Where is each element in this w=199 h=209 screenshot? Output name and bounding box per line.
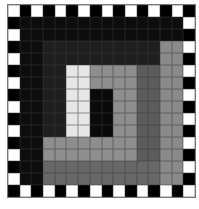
board-cell[interactable] <box>183 173 195 185</box>
board-cell[interactable] <box>125 125 137 137</box>
board-cell[interactable] <box>172 173 184 185</box>
board-cell[interactable] <box>183 185 195 197</box>
board-cell[interactable] <box>183 65 195 77</box>
board-cell[interactable] <box>55 185 67 197</box>
board-cell[interactable] <box>90 53 102 65</box>
board-cell[interactable] <box>137 185 149 197</box>
board-cell[interactable] <box>102 149 114 161</box>
board-cell[interactable] <box>125 185 137 197</box>
board-cell[interactable] <box>125 161 137 173</box>
board-cell[interactable] <box>43 41 55 53</box>
board-cell[interactable] <box>160 101 172 113</box>
board-cell[interactable] <box>8 29 20 41</box>
board-cell[interactable] <box>55 101 67 113</box>
board-cell[interactable] <box>55 149 67 161</box>
board-cell[interactable] <box>8 5 20 17</box>
board-cell[interactable] <box>148 89 160 101</box>
board-cell[interactable] <box>125 173 137 185</box>
board-cell[interactable] <box>113 89 125 101</box>
board-cell[interactable] <box>148 41 160 53</box>
board-cell[interactable] <box>113 173 125 185</box>
board-cell[interactable] <box>66 17 78 29</box>
board-cell[interactable] <box>102 89 114 101</box>
board-cell[interactable] <box>31 41 43 53</box>
board-cell[interactable] <box>113 41 125 53</box>
board-cell[interactable] <box>31 161 43 173</box>
board-cell[interactable] <box>102 53 114 65</box>
board-cell[interactable] <box>90 185 102 197</box>
board-cell[interactable] <box>55 17 67 29</box>
board-cell[interactable] <box>66 113 78 125</box>
board-cell[interactable] <box>8 125 20 137</box>
board-cell[interactable] <box>31 185 43 197</box>
board-cell[interactable] <box>160 113 172 125</box>
board-cell[interactable] <box>137 65 149 77</box>
board-cell[interactable] <box>172 29 184 41</box>
board-cell[interactable] <box>8 101 20 113</box>
board-cell[interactable] <box>125 77 137 89</box>
board-cell[interactable] <box>8 77 20 89</box>
board-cell[interactable] <box>66 77 78 89</box>
board-cell[interactable] <box>172 17 184 29</box>
board-cell[interactable] <box>43 161 55 173</box>
board-cell[interactable] <box>20 113 32 125</box>
board-cell[interactable] <box>183 17 195 29</box>
board-cell[interactable] <box>160 65 172 77</box>
board-cell[interactable] <box>66 41 78 53</box>
board-cell[interactable] <box>78 41 90 53</box>
board-cell[interactable] <box>113 17 125 29</box>
board-cell[interactable] <box>183 125 195 137</box>
board-cell[interactable] <box>43 17 55 29</box>
board-cell[interactable] <box>31 173 43 185</box>
board-cell[interactable] <box>148 29 160 41</box>
board-cell[interactable] <box>90 41 102 53</box>
board-cell[interactable] <box>43 125 55 137</box>
board-cell[interactable] <box>8 17 20 29</box>
board-cell[interactable] <box>113 29 125 41</box>
board-cell[interactable] <box>125 53 137 65</box>
board-cell[interactable] <box>160 77 172 89</box>
board-cell[interactable] <box>20 101 32 113</box>
board-cell[interactable] <box>20 29 32 41</box>
board-cell[interactable] <box>55 65 67 77</box>
board-cell[interactable] <box>102 125 114 137</box>
board-cell[interactable] <box>172 53 184 65</box>
board-cell[interactable] <box>183 29 195 41</box>
board-cell[interactable] <box>160 137 172 149</box>
board-cell[interactable] <box>102 17 114 29</box>
board-cell[interactable] <box>183 41 195 53</box>
board-cell[interactable] <box>148 137 160 149</box>
board-cell[interactable] <box>8 41 20 53</box>
board-cell[interactable] <box>113 161 125 173</box>
board-cell[interactable] <box>20 137 32 149</box>
board-cell[interactable] <box>8 173 20 185</box>
board-cell[interactable] <box>113 101 125 113</box>
board-cell[interactable] <box>55 137 67 149</box>
board-cell[interactable] <box>8 53 20 65</box>
board-cell[interactable] <box>183 101 195 113</box>
board-cell[interactable] <box>148 53 160 65</box>
board-cell[interactable] <box>78 125 90 137</box>
board-cell[interactable] <box>137 53 149 65</box>
board-cell[interactable] <box>160 125 172 137</box>
board-cell[interactable] <box>172 137 184 149</box>
board-cell[interactable] <box>66 53 78 65</box>
board-cell[interactable] <box>125 17 137 29</box>
board-cell[interactable] <box>172 5 184 17</box>
board-cell[interactable] <box>31 17 43 29</box>
board-cell[interactable] <box>43 29 55 41</box>
board-cell[interactable] <box>43 173 55 185</box>
board-cell[interactable] <box>43 185 55 197</box>
board-cell[interactable] <box>148 149 160 161</box>
board-cell[interactable] <box>125 149 137 161</box>
board-cell[interactable] <box>55 5 67 17</box>
board-cell[interactable] <box>78 101 90 113</box>
board-cell[interactable] <box>43 113 55 125</box>
board-cell[interactable] <box>90 149 102 161</box>
board-cell[interactable] <box>31 5 43 17</box>
board-cell[interactable] <box>137 161 149 173</box>
board-cell[interactable] <box>55 89 67 101</box>
board-cell[interactable] <box>125 41 137 53</box>
board-cell[interactable] <box>90 77 102 89</box>
board-cell[interactable] <box>78 89 90 101</box>
